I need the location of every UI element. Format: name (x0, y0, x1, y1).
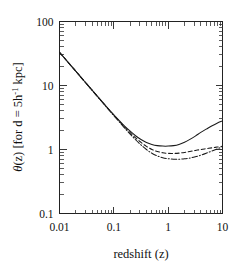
figure-container: 0.010.1110 0.1110100 redshift (z) θ(z) [… (0, 0, 239, 268)
curve-solid (60, 52, 223, 146)
y-tick-label: 1 (48, 144, 54, 156)
x-axis-tick-labels: 0.010.1110 (49, 221, 228, 233)
y-axis-label: θ(z) [for d = 5h-1 kpc] (10, 62, 25, 172)
x-tick-label: 0.01 (49, 221, 69, 233)
curve-dash-dot (60, 52, 223, 159)
y-label-bracket-open: [for d = 5h (11, 94, 25, 149)
svg-text:θ(z) [for d = 5h-1 kpc]: θ(z) [for d = 5h-1 kpc] (10, 62, 25, 172)
theta-vs-redshift-chart: 0.010.1110 0.1110100 redshift (z) θ(z) [… (0, 0, 239, 268)
plot-frame (60, 22, 223, 214)
x-tick-label: 1 (165, 221, 171, 233)
y-axis-minor-ticks (60, 24, 223, 194)
x-tick-label: 0.1 (107, 221, 122, 233)
y-label-arg: (z) (11, 152, 25, 166)
y-label-bracket-close: kpc] (11, 62, 25, 87)
y-axis-major-ticks (60, 22, 223, 214)
x-axis-label: redshift (z) (113, 247, 168, 261)
y-axis-tick-labels: 0.1110100 (36, 16, 54, 220)
x-axis-minor-ticks (76, 22, 220, 214)
x-tick-label: 10 (217, 221, 229, 233)
y-tick-label: 100 (36, 16, 54, 28)
data-series-group (60, 52, 223, 159)
y-tick-label: 0.1 (39, 208, 54, 220)
y-tick-label: 10 (42, 80, 54, 92)
x-axis-major-ticks (60, 22, 223, 214)
y-label-exponent: -1 (10, 88, 20, 95)
curve-dashed (60, 52, 223, 153)
